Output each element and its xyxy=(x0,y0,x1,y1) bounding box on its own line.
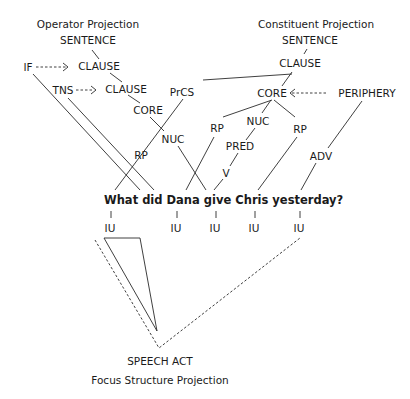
operator-projection-title: Operator Projection xyxy=(37,18,139,30)
constituent-projection-title: Constituent Projection xyxy=(258,18,374,30)
constituent-prcs-node: PrCS xyxy=(170,86,195,98)
edge-core-rp2 xyxy=(274,100,295,117)
constituent-periphery-node: PERIPHERY xyxy=(338,87,396,99)
example-sentence: What did Dana give Chris yesterday? xyxy=(104,193,343,207)
iu-node-1: IU xyxy=(105,222,116,234)
operator-nuc-node: NUC xyxy=(162,133,185,145)
operator-core-node: CORE xyxy=(133,104,163,116)
operator-tns-node: TNS xyxy=(52,84,74,96)
constituent-rp-node-2: RP xyxy=(293,123,307,135)
edge-adv-yesterday xyxy=(301,163,316,190)
edge-nuc-verb-op xyxy=(178,146,206,190)
edge-periphery-adv xyxy=(328,101,362,148)
iu-node-2: IU xyxy=(171,222,182,234)
constituent-sentence-node: SENTENCE xyxy=(282,34,338,46)
operator-if-node: IF xyxy=(23,61,32,73)
edge-sentence-clause-op xyxy=(92,50,99,59)
edge-clause-clause-op xyxy=(110,73,122,82)
actual-focus-domain-triangle xyxy=(104,238,157,331)
constituent-nuc-node: NUC xyxy=(247,115,270,127)
constituent-clause-node: CLAUSE xyxy=(279,57,321,69)
potential-focus-domain-dotted-line xyxy=(95,238,300,348)
operator-clause-node-2: CLAUSE xyxy=(105,83,147,95)
edge-clause-core-op xyxy=(128,95,140,103)
edge-sentence-clause-con xyxy=(304,49,307,54)
focus-structure-projection-title: Focus Structure Projection xyxy=(91,374,228,386)
constituent-core-node: CORE xyxy=(257,87,287,99)
iu-node-4: IU xyxy=(249,222,260,234)
edge-clause-prcs xyxy=(203,74,292,80)
edge-core-nuc-op xyxy=(150,117,164,131)
iu-node-3: IU xyxy=(210,222,221,234)
speech-act-node: SPEECH ACT xyxy=(127,355,193,367)
constituent-rp-node-1: RP xyxy=(210,122,224,134)
constituent-pred-node: PRED xyxy=(226,140,254,152)
edge-v-give xyxy=(214,179,223,190)
edge-nuc-pred xyxy=(246,128,255,140)
edge-rp2-chris xyxy=(258,137,297,190)
constituent-adv-node: ADV xyxy=(310,150,333,162)
constituent-v-node: V xyxy=(222,167,230,179)
edge-rp1-dana xyxy=(186,137,214,190)
operator-clause-node-1: CLAUSE xyxy=(78,60,120,72)
rrg-layered-structure-diagram: Operator Projection SENTENCE Constituent… xyxy=(0,0,410,399)
operator-sentence-node: SENTENCE xyxy=(60,34,116,46)
edge-pred-v xyxy=(230,153,238,166)
iu-node-5: IU xyxy=(294,222,305,234)
